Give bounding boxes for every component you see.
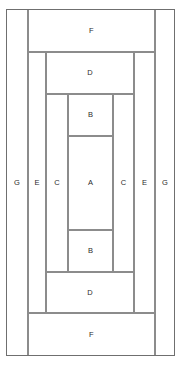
region-d-bottom[interactable]: D xyxy=(46,272,134,313)
region-label-e-right: E xyxy=(142,179,147,187)
region-b-top[interactable]: B xyxy=(68,94,113,136)
region-f-bottom[interactable]: F xyxy=(28,313,155,356)
region-b-bottom[interactable]: B xyxy=(68,230,113,272)
region-label-d-bottom: D xyxy=(87,289,93,297)
region-label-f-bottom: F xyxy=(89,331,94,339)
region-label-g-left: G xyxy=(14,179,20,187)
region-d-top[interactable]: D xyxy=(46,52,134,94)
region-label-f-top: F xyxy=(89,27,94,35)
region-label-b-bottom: B xyxy=(88,247,93,255)
region-e-right[interactable]: E xyxy=(134,52,155,313)
region-c-right[interactable]: C xyxy=(113,94,134,272)
region-label-d-top: D xyxy=(87,69,93,77)
region-g-right[interactable]: G xyxy=(155,9,175,356)
region-label-a-center: A xyxy=(88,179,93,187)
diagram-canvas: G G F F E E D D C C B B A xyxy=(0,0,181,366)
region-a-center[interactable]: A xyxy=(68,136,113,230)
region-label-b-top: B xyxy=(88,111,93,119)
region-e-left[interactable]: E xyxy=(28,52,46,313)
region-label-g-right: G xyxy=(162,179,168,187)
region-c-left[interactable]: C xyxy=(46,94,68,272)
region-label-e-left: E xyxy=(34,179,39,187)
region-g-left[interactable]: G xyxy=(6,9,28,356)
region-label-c-right: C xyxy=(121,179,127,187)
region-f-top[interactable]: F xyxy=(28,9,155,52)
region-label-c-left: C xyxy=(54,179,60,187)
